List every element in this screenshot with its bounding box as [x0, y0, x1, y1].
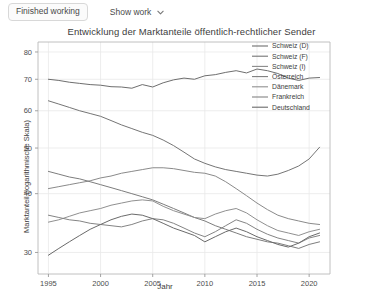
svg-text:2020: 2020	[301, 279, 318, 288]
status-badge: Finished working	[8, 3, 88, 21]
svg-text:30: 30	[24, 248, 32, 257]
svg-text:70: 70	[24, 75, 32, 84]
svg-text:80: 80	[24, 48, 32, 57]
screenshot-root: Finished working Show work Entwicklung d…	[0, 0, 383, 305]
svg-text:2015: 2015	[249, 279, 266, 288]
svg-text:1995: 1995	[40, 279, 57, 288]
svg-text:Österreich: Österreich	[272, 73, 304, 80]
top-toolbar: Finished working Show work	[0, 0, 383, 24]
svg-text:Schweiz (I): Schweiz (I)	[272, 63, 306, 71]
chevron-down-icon	[156, 8, 165, 17]
svg-text:Schweiz (F): Schweiz (F)	[272, 53, 308, 61]
svg-text:Dänemark: Dänemark	[272, 83, 304, 90]
svg-text:2000: 2000	[92, 279, 109, 288]
show-work-label: Show work	[110, 7, 152, 17]
line-chart-plot: 304050607080199520002005201020152020Schw…	[0, 24, 383, 305]
svg-text:2010: 2010	[197, 279, 214, 288]
svg-text:50: 50	[24, 144, 32, 153]
svg-text:Schweiz (D): Schweiz (D)	[272, 42, 309, 50]
svg-text:Frankreich: Frankreich	[272, 93, 304, 100]
svg-text:60: 60	[24, 106, 32, 115]
chart-figure: Entwicklung der Marktanteile öffentlich-…	[0, 24, 383, 305]
svg-text:40: 40	[24, 189, 32, 198]
show-work-toggle[interactable]: Show work	[110, 7, 166, 17]
svg-text:Deutschland: Deutschland	[272, 104, 310, 111]
svg-text:2005: 2005	[144, 279, 161, 288]
